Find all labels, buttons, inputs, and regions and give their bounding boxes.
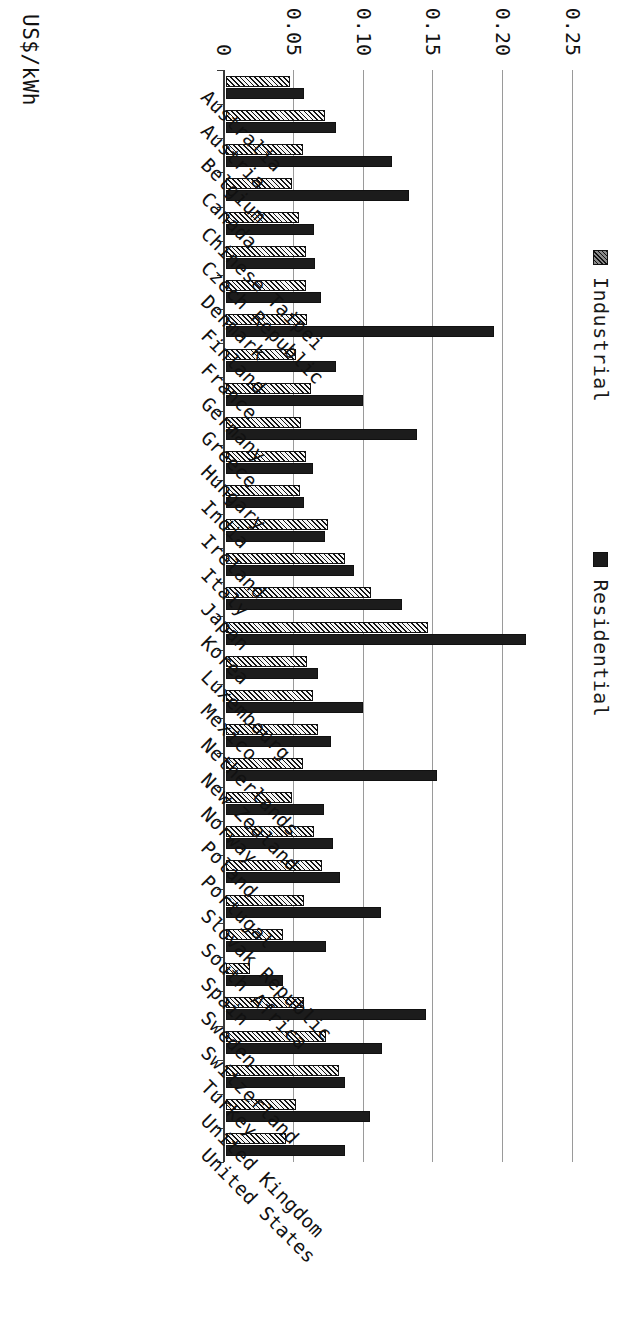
bar-group <box>224 207 573 241</box>
bar-group <box>224 684 573 718</box>
category-label-cell: Turkey <box>5 1060 220 1094</box>
category-label-cell: Finland <box>5 309 220 343</box>
category-label-cell: Belgium <box>5 138 220 172</box>
electricity-price-bar-chart: US$/kWh Industrial Residential 00.050.10… <box>0 0 635 1328</box>
category-label-cell: Australia <box>5 70 220 104</box>
category-label-cell: India <box>5 480 220 514</box>
bar-group <box>224 480 573 514</box>
bar-group <box>224 241 573 275</box>
value-tick-label: 0.25 <box>561 8 585 56</box>
bar-residential <box>226 634 526 645</box>
bar-group <box>224 1060 573 1094</box>
category-label-cell: United Kingdom <box>5 1094 220 1128</box>
bar-industrial <box>226 622 428 633</box>
category-label-cell: Ireland <box>5 514 220 548</box>
bar-residential <box>226 88 304 99</box>
category-label-cell: United States <box>5 1128 220 1162</box>
category-label-cell: Denmark <box>5 275 220 309</box>
category-label-cell: Germany <box>5 377 220 411</box>
bar-group <box>224 616 573 650</box>
rotated-chart-stage: US$/kWh Industrial Residential 00.050.10… <box>0 0 635 1328</box>
category-labels: AustraliaAustriaBelgiumCanadaChinese Tai… <box>5 70 220 1162</box>
category-label-cell: Austria <box>5 104 220 138</box>
legend-item-residential: Residential <box>589 552 613 717</box>
legend-label-industrial: Industrial <box>589 277 613 402</box>
category-label-cell: Korea <box>5 616 220 650</box>
solid-swatch-icon <box>594 552 609 567</box>
category-label-cell: Poland <box>5 821 220 855</box>
bar-group <box>224 104 573 138</box>
category-label-cell: South Africa <box>5 923 220 957</box>
hatched-swatch-icon <box>594 250 609 265</box>
bar-group <box>224 650 573 684</box>
category-label-cell: Japan <box>5 582 220 616</box>
bar-group <box>224 411 573 445</box>
category-label-cell: Canada <box>5 172 220 206</box>
category-label-cell: Norway <box>5 787 220 821</box>
legend-label-residential: Residential <box>589 579 613 717</box>
bar-group <box>224 889 573 923</box>
category-label-cell: Sweden <box>5 991 220 1025</box>
bar-group <box>224 445 573 479</box>
value-tick-label: 0.15 <box>421 8 445 56</box>
value-tick-label: 0 <box>212 44 236 56</box>
category-label-cell: Italy <box>5 548 220 582</box>
category-label-cell: Greece <box>5 411 220 445</box>
bar-industrial <box>226 76 290 87</box>
bar-group <box>224 923 573 957</box>
category-label-cell: France <box>5 343 220 377</box>
category-label-cell: Portugal <box>5 855 220 889</box>
category-label-cell: Hungary <box>5 445 220 479</box>
category-label-cell: Netherlands <box>5 718 220 752</box>
category-label-cell: Switzerland <box>5 1026 220 1060</box>
chart-legend: Industrial Residential <box>589 250 613 717</box>
category-label-cell: Chinese Taipei <box>5 207 220 241</box>
category-label-cell: New Zealand <box>5 753 220 787</box>
category-label-cell: Spain <box>5 957 220 991</box>
value-tick-label: 0.20 <box>491 8 515 56</box>
bar-group <box>224 172 573 206</box>
bar-group <box>224 548 573 582</box>
legend-item-industrial: Industrial <box>589 250 613 402</box>
value-tick-label: 0.10 <box>352 8 376 56</box>
bar-group <box>224 70 573 104</box>
bar-group <box>224 582 573 616</box>
bar-group <box>224 514 573 548</box>
category-label-cell: Mexico <box>5 684 220 718</box>
category-label-cell: Luxembourg <box>5 650 220 684</box>
bar-group <box>224 377 573 411</box>
category-label-cell: Slovak Republic <box>5 889 220 923</box>
category-label-cell: Czech Republic <box>5 241 220 275</box>
value-tick-label: 0.05 <box>282 8 306 56</box>
